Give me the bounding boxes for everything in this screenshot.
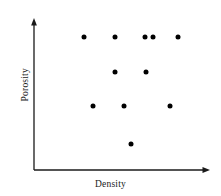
- axes-group: [31, 18, 210, 173]
- x-axis-arrowhead: [203, 167, 211, 173]
- data-point: [143, 35, 148, 40]
- data-point: [91, 104, 96, 109]
- data-point: [82, 35, 87, 40]
- data-point: [144, 70, 149, 75]
- data-points-group: [82, 35, 181, 147]
- data-point: [113, 35, 118, 40]
- data-point: [151, 35, 156, 40]
- data-point: [176, 35, 181, 40]
- data-point: [113, 70, 118, 75]
- y-axis-label: Porosity: [21, 68, 31, 101]
- data-point: [129, 142, 134, 147]
- x-axis-label: Density: [0, 180, 221, 190]
- data-point: [168, 104, 173, 109]
- data-point: [122, 104, 127, 109]
- scatter-plot-figure: Porosity Density: [0, 0, 221, 196]
- y-axis-label-container: Porosity: [0, 0, 34, 170]
